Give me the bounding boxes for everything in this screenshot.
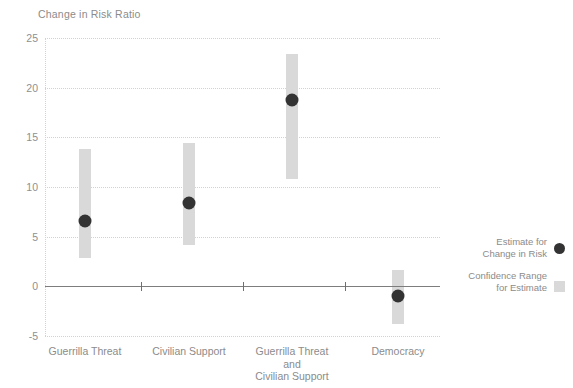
x-axis-label: Democracy bbox=[371, 345, 424, 358]
estimate-dot bbox=[183, 196, 196, 209]
legend-label-confidence: Confidence Range for Estimate bbox=[455, 270, 547, 293]
y-tick-10: 10 bbox=[8, 181, 38, 193]
risk-ratio-chart: Change in Risk Ratio 25 20 15 10 5 0 -5 … bbox=[0, 0, 573, 388]
legend-item-confidence: Confidence Range for Estimate bbox=[455, 270, 565, 304]
legend-circle-icon bbox=[554, 243, 565, 254]
gridline-minus5 bbox=[45, 336, 440, 337]
gridline-25 bbox=[45, 38, 440, 39]
confidence-bar bbox=[183, 143, 195, 244]
legend-label-estimate: Estimate for Change in Risk bbox=[455, 236, 547, 259]
y-tick-0: 0 bbox=[8, 280, 38, 292]
legend-item-estimate: Estimate for Change in Risk bbox=[455, 236, 565, 270]
plot-area bbox=[45, 38, 440, 336]
y-tick-25: 25 bbox=[8, 32, 38, 44]
gridline-5 bbox=[45, 237, 440, 238]
y-axis-ticks: 25 20 15 10 5 0 -5 bbox=[5, 38, 38, 336]
y-tick-15: 15 bbox=[8, 131, 38, 143]
y-tick-5: 5 bbox=[8, 231, 38, 243]
gridline-15 bbox=[45, 137, 440, 138]
confidence-bar bbox=[286, 54, 298, 179]
legend-square-icon bbox=[554, 281, 565, 292]
y-tick-20: 20 bbox=[8, 82, 38, 94]
estimate-dot bbox=[286, 93, 299, 106]
gridline-20 bbox=[45, 88, 440, 89]
x-axis-label: Guerrilla Threat bbox=[49, 345, 122, 358]
axis-tick-mark bbox=[243, 282, 244, 291]
axis-tick-mark bbox=[141, 282, 142, 291]
chart-legend: Estimate for Change in Risk Confidence R… bbox=[455, 236, 565, 304]
chart-title: Change in Risk Ratio bbox=[38, 8, 141, 20]
gridline-10 bbox=[45, 187, 440, 188]
y-tick-minus5: -5 bbox=[8, 330, 38, 342]
estimate-dot bbox=[79, 214, 92, 227]
estimate-dot bbox=[392, 290, 405, 303]
x-axis-label: Civilian Support bbox=[152, 345, 226, 358]
axis-tick-mark bbox=[345, 282, 346, 291]
confidence-bar bbox=[79, 149, 91, 257]
x-axis-label: Guerrilla Threat and Civilian Support bbox=[255, 345, 329, 383]
